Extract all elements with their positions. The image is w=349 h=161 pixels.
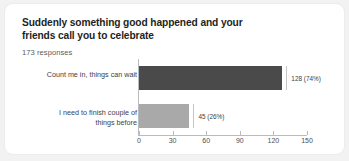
bar	[139, 104, 189, 128]
bar-category-label: Count me in, things can wait	[45, 70, 137, 80]
x-tick-mark	[307, 131, 308, 135]
bar-value-label: 45 (26%)	[198, 113, 224, 120]
x-tick-mark	[206, 131, 207, 135]
x-tick-label: 60	[202, 137, 210, 144]
bar-value-label: 128 (74%)	[291, 75, 321, 82]
x-tick-label: 0	[137, 137, 141, 144]
x-tick-mark	[273, 131, 274, 135]
survey-result-card: Suddenly something good happened and you…	[4, 3, 345, 155]
value-leader-line	[286, 66, 287, 90]
value-leader-line	[193, 104, 194, 128]
bar-chart: 0306090120150 Count me in, things can wa…	[5, 4, 345, 155]
x-axis-line	[138, 135, 307, 136]
x-tick-label: 150	[301, 137, 313, 144]
x-tick-label: 120	[268, 137, 280, 144]
x-tick-label: 30	[169, 137, 177, 144]
x-tick-mark	[240, 131, 241, 135]
bar-category-label: I need to finish couple of things before	[45, 108, 137, 127]
bar	[139, 66, 282, 90]
x-tick-mark	[173, 131, 174, 135]
x-tick-label: 90	[236, 137, 244, 144]
x-tick-mark	[139, 131, 140, 135]
